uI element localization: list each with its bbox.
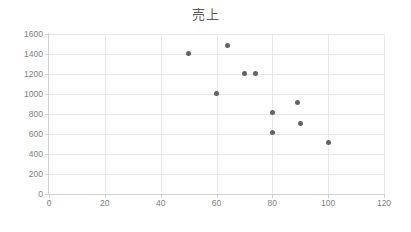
x-tick-label: 20 [90,199,120,208]
x-tick-label: 0 [34,199,64,208]
x-gridline [105,34,106,194]
x-tick-label: 60 [202,199,232,208]
x-tick-label: 100 [313,199,343,208]
y-tick-label: 1200 [0,70,43,79]
data-point[interactable] [253,71,258,76]
data-point[interactable] [186,51,191,56]
x-tick-mark [105,194,106,198]
x-tick-mark [217,194,218,198]
x-tick-mark [161,194,162,198]
x-tick-mark [328,194,329,198]
plot-area [49,34,384,194]
x-gridline [161,34,162,194]
x-gridline [328,34,329,194]
scatter-chart: 売上 0200400600800100012001400160002040608… [0,0,411,232]
x-gridline [217,34,218,194]
y-tick-mark [45,94,49,95]
x-tick-mark [49,194,50,198]
y-tick-mark [45,54,49,55]
y-tick-label: 200 [0,170,43,179]
y-tick-label: 400 [0,150,43,159]
y-tick-mark [45,154,49,155]
plot-right-edge [384,34,385,194]
y-tick-label: 600 [0,130,43,139]
x-tick-mark [272,194,273,198]
x-tick-label: 80 [257,199,287,208]
data-point[interactable] [242,71,247,76]
data-point[interactable] [295,100,300,105]
y-tick-mark [45,174,49,175]
y-tick-mark [45,134,49,135]
y-tick-mark [45,74,49,75]
y-tick-label: 0 [0,190,43,199]
y-tick-label: 1000 [0,90,43,99]
data-point[interactable] [225,43,230,48]
x-tick-mark [384,194,385,198]
y-tick-label: 800 [0,110,43,119]
data-point[interactable] [326,140,331,145]
x-tick-label: 120 [369,199,399,208]
y-tick-label: 1400 [0,50,43,59]
y-tick-mark [45,34,49,35]
y-tick-label: 1600 [0,30,43,39]
y-tick-mark [45,114,49,115]
data-point[interactable] [214,91,219,96]
chart-title: 売上 [0,4,411,23]
data-point[interactable] [270,130,275,135]
x-tick-label: 40 [146,199,176,208]
data-point[interactable] [298,121,303,126]
data-point[interactable] [270,110,275,115]
